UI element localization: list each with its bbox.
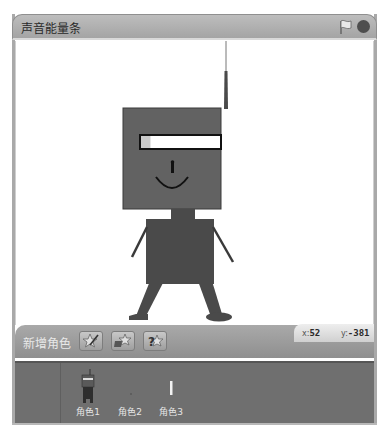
svg-text:?: ?: [148, 335, 155, 349]
robot-right-leg: [198, 281, 222, 314]
new-sprite-label: 新增角色: [23, 334, 71, 351]
y-label: y:: [341, 329, 348, 338]
sprite-name: 角色3: [153, 405, 189, 418]
robot-right-foot: [206, 313, 232, 322]
project-title: 声音能量条: [21, 19, 81, 36]
robot-left-arm: [132, 227, 147, 257]
y-value: -381: [348, 328, 370, 338]
stop-sign-icon[interactable]: [357, 20, 370, 33]
choose-sprite-from-file-button[interactable]: [111, 331, 135, 351]
antenna: [224, 71, 228, 109]
sprite-name: 角色2: [112, 405, 148, 418]
x-value: 52: [309, 328, 320, 338]
sprite-item[interactable]: 角色3: [153, 367, 189, 421]
mouse-coordinates: x:52 y:-381: [294, 324, 374, 342]
green-flag-icon[interactable]: [338, 19, 354, 35]
random-sprite-button[interactable]: ?: [143, 331, 167, 351]
stage-titlebar: 声音能量条: [12, 14, 377, 40]
bar-thumb-icon: [161, 369, 181, 403]
paint-new-sprite-button[interactable]: [79, 331, 103, 351]
robot-head: [123, 108, 221, 209]
sprite-item[interactable]: 角色1: [70, 367, 106, 421]
robot-left-leg: [136, 281, 164, 316]
energy-bar-track: [140, 135, 221, 149]
robot-nose: [171, 163, 174, 173]
robot-right-arm: [213, 227, 233, 262]
sprite-list-pane: 角色1 角色2 角色3: [15, 361, 374, 423]
stage-thumbnail-area[interactable]: [15, 363, 61, 423]
paintbrush-star-icon: [82, 333, 100, 349]
sprite-name: 角色1: [70, 405, 106, 418]
sprite-item[interactable]: 角色2: [112, 367, 148, 421]
robot-sprite[interactable]: [16, 41, 374, 325]
window-bottom-edge: [12, 423, 377, 425]
question-star-icon: ?: [146, 333, 164, 349]
robot-left-foot: [129, 314, 148, 320]
folder-star-icon: [114, 333, 132, 349]
robot-thumb-icon: [78, 369, 98, 403]
empty-thumb-icon: [120, 369, 140, 403]
robot-body: [146, 219, 214, 284]
stage-canvas[interactable]: [15, 41, 374, 325]
energy-bar-fill: [141, 136, 150, 148]
